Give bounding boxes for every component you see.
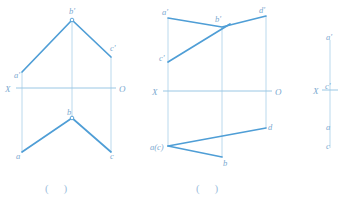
- figure-1-top-view: [22, 116, 111, 152]
- figure-1-labels: a' b' c' a b c: [14, 6, 116, 161]
- label-a-c-coincident: a(c): [150, 142, 164, 152]
- figure-3-labels: a' c' a c: [325, 32, 332, 151]
- label-c-prime: c': [110, 43, 116, 53]
- label-a: a: [326, 122, 330, 132]
- front-view-line-c-prime-b-prime: [168, 24, 230, 62]
- label-c-prime: c': [159, 53, 165, 63]
- axis-label-x: X: [4, 84, 11, 94]
- label-b-prime: b': [215, 14, 221, 24]
- projection-drawing-svg: X O a' b' c' a b c (: [0, 0, 338, 209]
- vertex-marker-b-prime: [70, 18, 74, 22]
- axis-label-x: X: [312, 86, 319, 96]
- label-b: b: [67, 107, 71, 117]
- figure-2-caption: ( ): [196, 182, 224, 195]
- axis-label-x: X: [151, 87, 158, 97]
- label-d-prime: d': [259, 5, 265, 15]
- figure-2-group: X O a' b' d' c' a(c) b d: [150, 5, 282, 195]
- figure-1-group: X O a' b' c' a b c (: [4, 6, 126, 195]
- figure-1-caption: ( ): [45, 182, 73, 195]
- figure-2-projection-lines: [168, 16, 266, 157]
- figure-1-projection-lines: [22, 20, 111, 152]
- front-view-polyline: [22, 20, 111, 72]
- figure-2-axis: X O: [151, 87, 282, 97]
- figure-2-top-view: [168, 128, 266, 157]
- label-d: d: [268, 122, 273, 132]
- label-a-prime: a': [162, 7, 168, 17]
- label-b: b: [223, 158, 227, 168]
- label-a-prime: a': [14, 70, 20, 80]
- figure-2-labels: a' b' d' c' a(c) b d: [150, 5, 273, 168]
- figure-1-front-view: [22, 18, 111, 72]
- label-c: c: [110, 151, 114, 161]
- label-b-prime: b': [69, 6, 75, 16]
- label-a: a: [16, 151, 20, 161]
- top-view-line-a-d: [168, 128, 266, 146]
- axis-label-o: O: [275, 87, 282, 97]
- label-c-prime: c': [325, 81, 331, 91]
- label-a-prime: a': [326, 32, 332, 42]
- top-view-line-a-b: [168, 146, 222, 157]
- figure-3-group: X a' c' a c: [312, 32, 338, 151]
- drawing-canvas: X O a' b' c' a b c (: [0, 0, 338, 209]
- top-view-polyline: [22, 118, 111, 152]
- label-c: c: [326, 141, 330, 151]
- axis-label-o: O: [119, 84, 126, 94]
